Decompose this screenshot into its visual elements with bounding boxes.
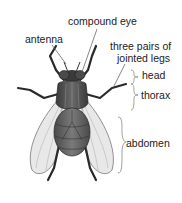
thorax-brace — [131, 84, 138, 110]
leader-antenna — [52, 45, 66, 64]
right-compound-eye — [75, 71, 85, 80]
label-thorax: thorax — [141, 90, 170, 101]
middle-right-leg — [82, 84, 126, 98]
label-compound-eye: compound eye — [68, 16, 137, 27]
label-abdomen: abdomen — [126, 138, 170, 149]
leader-legs — [114, 64, 125, 86]
middle-left-leg — [18, 88, 62, 98]
label-legs: three pairs of jointed legs — [110, 40, 171, 64]
label-legs-line2: jointed legs — [110, 52, 171, 64]
left-compound-eye — [59, 71, 69, 80]
fly-diagram: compound eye antenna three pairs of join… — [0, 0, 182, 203]
fly-illustration — [0, 0, 182, 203]
head-brace — [131, 70, 138, 84]
abdomen-brace — [118, 117, 126, 173]
label-legs-line1: three pairs of — [110, 40, 171, 52]
label-antenna: antenna — [25, 34, 63, 45]
label-head: head — [142, 70, 165, 81]
